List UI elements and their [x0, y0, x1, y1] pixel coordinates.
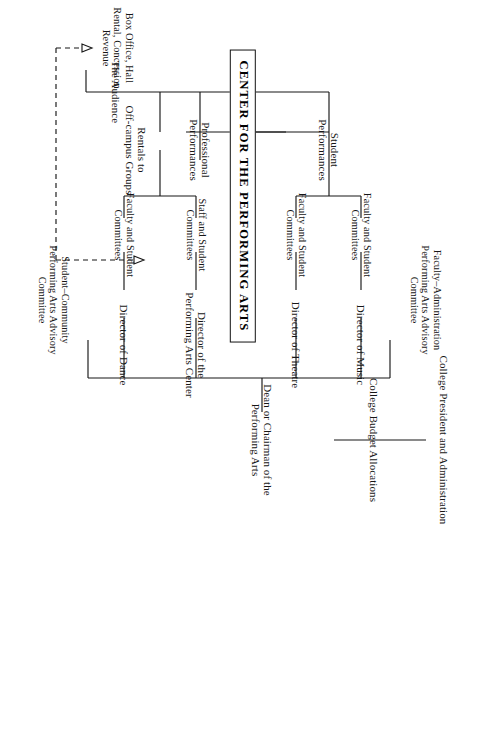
node-student-performances: Student Performances: [317, 100, 342, 200]
node-director-of-music: Director of Music: [355, 290, 367, 400]
node-student-community-advisory-committee: Student–Community Performing Arts Adviso…: [37, 215, 72, 385]
node-committee-theatre: Faculty and Student Committees: [284, 175, 307, 295]
node-director-of-performing-arts-center: Director of the Performing Arts Center: [184, 280, 209, 410]
node-director-of-theatre: Director of Theatre: [290, 290, 302, 400]
node-faculty-administration-advisory-committee: Faculty–Administration Performing Arts A…: [409, 215, 444, 385]
node-box-office-revenue: Box Office, Hall Rental, Concession Reve…: [101, 0, 136, 108]
node-center-for-the-performing-arts: Center for the Performing Arts: [230, 50, 256, 343]
org-chart-canvas: College President and Administration Col…: [0, 0, 486, 748]
node-dean-or-chairman: Dean or Chairman of the Performing Arts: [250, 360, 275, 520]
node-director-of-dance: Director of Dance: [118, 290, 130, 400]
node-professional-performances: Professional Performances: [188, 100, 213, 200]
node-college-budget-allocations: College Budget Allocations: [368, 345, 380, 535]
diagram-rotator: College President and Administration Col…: [0, 0, 486, 748]
node-committee-music: Faculty and Student Committees: [349, 175, 372, 295]
node-rentals-to-off-campus-groups: Rentals to Off-campus Groups: [124, 90, 149, 210]
